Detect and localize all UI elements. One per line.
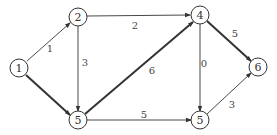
weight-label-1-2: 1 [47, 43, 53, 54]
node-5-left: 5 [69, 111, 87, 129]
node-5-right: 5 [191, 111, 209, 129]
weight-label-2-5: 3 [82, 57, 88, 68]
weight-label-5-4: 6 [149, 65, 155, 76]
weight-label-4-6: 5 [232, 28, 238, 39]
node-5-left-label: 5 [75, 114, 82, 127]
node-6: 6 [249, 58, 267, 76]
weight-label-4-5: 0 [201, 58, 207, 69]
node-2-label: 2 [75, 11, 82, 24]
edge-2-to-4 [87, 15, 190, 16]
graph-canvas: 1 2 3 6 5 0 5 3 1 2 5 4 5 6 [0, 0, 277, 135]
weight-label-2-4: 2 [132, 20, 138, 31]
edge-1-to-5 [26, 75, 70, 115]
node-1-label: 1 [16, 62, 23, 75]
node-6-label: 6 [255, 61, 262, 74]
node-4-label: 4 [197, 9, 204, 22]
edge-5-to-4 [85, 22, 193, 114]
edge-4-to-6 [207, 21, 251, 61]
node-2: 2 [69, 8, 87, 26]
node-5-right-label: 5 [197, 114, 204, 127]
node-4: 4 [191, 6, 209, 24]
weight-label-5-6: 3 [229, 99, 235, 110]
weight-label-5-5: 5 [141, 109, 147, 120]
node-1: 1 [10, 59, 28, 77]
